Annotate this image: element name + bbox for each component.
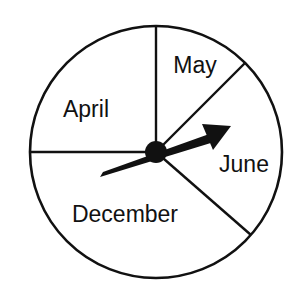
spinner-hub bbox=[145, 141, 167, 163]
sector-label-april: April bbox=[63, 96, 109, 122]
sector-label-may: May bbox=[173, 52, 217, 78]
sector-label-december: December bbox=[72, 201, 178, 227]
spinner-figure: May April December June bbox=[0, 0, 297, 292]
spinner-wheel-graphic: May April December June bbox=[0, 0, 297, 292]
sector-label-june: June bbox=[219, 151, 269, 177]
